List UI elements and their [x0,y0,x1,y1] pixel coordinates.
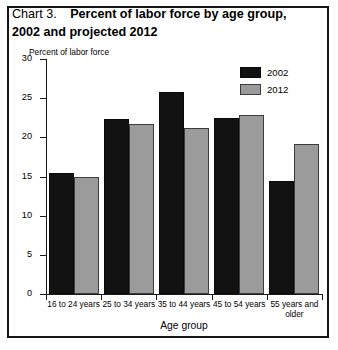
x-axis-category-label: 16 to 24 years [46,300,101,310]
bar-2002-5 [269,181,294,294]
legend-label-2012: 2012 [267,84,288,95]
bar-2012-4 [239,115,264,294]
legend-item-2002: 2002 [240,64,288,81]
bar-2012-1 [74,177,99,295]
bar-2002-3 [159,92,184,294]
y-axis-tick-label: 10 [6,210,32,220]
x-axis-line [46,294,323,295]
chart-legend: 2002 2012 [240,64,288,98]
bar-2002-2 [104,119,129,294]
x-axis-category-label: 25 to 34 years [101,300,156,310]
y-axis-label: Percent of labor force [29,47,109,57]
chart-figure: Chart 3. Percent of labor force by age g… [0,0,338,350]
bar-2002-4 [214,118,239,294]
bar-group [159,59,209,294]
chart-title: Chart 3. Percent of labor force by age g… [12,5,308,40]
y-axis-tick-label: 20 [6,131,32,141]
x-axis-category-label: 55 years and older [267,300,322,319]
y-axis-tick-label: 15 [6,171,32,181]
chart-title-line-1: Chart 3. Percent of labor force by age g… [12,5,308,23]
chart-title-prefix: Chart 3. [12,7,57,21]
legend-swatch-2012-icon [240,84,261,95]
chart-title-main: Percent of labor force by age group, [70,7,286,21]
x-axis-category-label: 35 to 44 years [156,300,211,310]
y-axis-tick-label: 30 [6,53,32,63]
x-axis-category-label: 45 to 54 years [212,300,267,310]
bar-2012-2 [129,124,154,294]
x-axis-label: Age group [46,320,322,331]
y-axis-tick-label: 5 [6,249,32,259]
x-axis-tick [322,295,323,300]
legend-label-2002: 2002 [267,67,288,78]
bar-2012-5 [294,144,319,294]
y-axis-tick-label: 25 [6,92,32,102]
legend-item-2012: 2012 [240,81,288,98]
chart-title-line-2: 2002 and projected 2012 [12,23,308,41]
legend-swatch-2002-icon [240,67,261,78]
bar-2012-3 [184,128,209,294]
bar-2002-1 [49,173,74,294]
y-axis-tick-label: 0 [6,288,32,298]
bar-group [104,59,154,294]
bar-group [49,59,99,294]
